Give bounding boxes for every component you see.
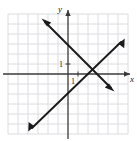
y-axis-label: y [57,4,62,14]
graph-canvas: y x 1 1 [0,0,137,141]
coordinate-plane-figure: y x 1 1 [0,0,137,141]
y-unit-tick-label: 1 [59,60,63,69]
x-axis-label: x [129,74,134,84]
x-unit-tick-label: 1 [71,77,75,86]
